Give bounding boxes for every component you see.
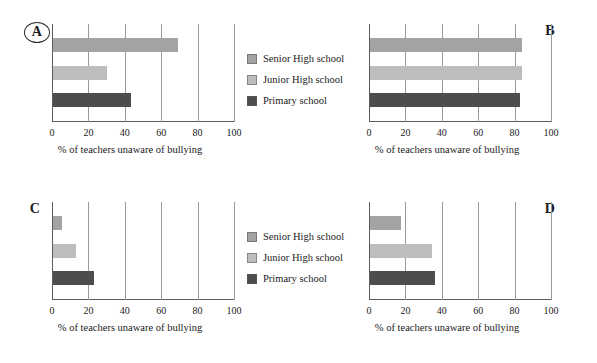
legend-label: Primary school <box>263 272 327 285</box>
legend-label: Junior High school <box>263 73 343 86</box>
gridline-100 <box>234 202 235 300</box>
bar-row <box>53 38 234 52</box>
tick-label-80: 80 <box>510 126 520 139</box>
panel-c-plot <box>52 202 234 300</box>
tick-label-40: 40 <box>437 304 447 317</box>
junior-swatch-icon <box>247 253 257 263</box>
panel-d-bars <box>370 202 551 299</box>
bar-senior <box>53 216 62 230</box>
tick-label-100: 100 <box>227 126 242 139</box>
gridline-100 <box>234 24 235 122</box>
tick-label-20: 20 <box>400 126 410 139</box>
tick-label-0: 0 <box>367 304 372 317</box>
tick-label-80: 80 <box>193 304 203 317</box>
bar-primary <box>53 271 94 285</box>
panel-d-x-axis <box>369 299 551 300</box>
legend-item-junior: Junior High school <box>247 247 357 268</box>
bar-row <box>370 38 551 52</box>
bar-junior <box>53 244 76 258</box>
panel-d: D 020406080100 % of teachers unaware of … <box>331 196 563 351</box>
tick-label-100: 100 <box>544 126 559 139</box>
bar-row <box>53 271 234 285</box>
panel-c-tick-labels: 020406080100 <box>52 304 234 318</box>
tick-label-60: 60 <box>156 126 166 139</box>
gridline-100 <box>551 24 552 122</box>
bar-primary <box>370 93 520 107</box>
bar-junior <box>53 66 107 80</box>
panel-b-tick-labels: 020406080100 <box>369 126 551 140</box>
legend-item-primary: Primary school <box>247 90 357 111</box>
legend-label: Senior High school <box>263 230 344 243</box>
legend-bottom: Senior High school Junior High school Pr… <box>247 226 357 289</box>
panel-b-x-axis <box>369 121 551 122</box>
tick-label-0: 0 <box>50 304 55 317</box>
panel-c-label: C <box>24 200 46 218</box>
bar-senior <box>370 38 522 52</box>
panel-b-bars <box>370 24 551 121</box>
legend-item-primary: Primary school <box>247 268 357 289</box>
tick-label-60: 60 <box>156 304 166 317</box>
panel-d-x-axis-title: % of teachers unaware of bullying <box>331 322 563 333</box>
panel-d-tick-labels: 020406080100 <box>369 304 551 318</box>
bar-row <box>370 271 551 285</box>
bar-junior <box>370 244 432 258</box>
panel-a: A 020406080100 % of teachers unaware of … <box>14 18 246 173</box>
tick-label-60: 60 <box>473 304 483 317</box>
bar-row <box>53 93 234 107</box>
legend-label: Senior High school <box>263 52 344 65</box>
bar-row <box>370 66 551 80</box>
legend-item-junior: Junior High school <box>247 69 357 90</box>
panel-b-x-axis-title: % of teachers unaware of bullying <box>331 144 563 155</box>
tick-label-40: 40 <box>120 304 130 317</box>
bar-row <box>370 93 551 107</box>
bar-senior <box>53 38 178 52</box>
bar-row <box>53 66 234 80</box>
panel-a-label: A <box>24 22 50 43</box>
tick-label-0: 0 <box>367 126 372 139</box>
bar-row <box>370 244 551 258</box>
panel-a-x-axis <box>52 121 234 122</box>
primary-swatch-icon <box>247 274 257 284</box>
panel-a-plot <box>52 24 234 122</box>
tick-label-100: 100 <box>227 304 242 317</box>
legend-label: Primary school <box>263 94 327 107</box>
panel-b-plot <box>369 24 551 122</box>
tick-label-80: 80 <box>510 304 520 317</box>
bullying-awareness-figure: A 020406080100 % of teachers unaware of … <box>0 0 597 363</box>
primary-swatch-icon <box>247 96 257 106</box>
tick-label-60: 60 <box>473 126 483 139</box>
bar-senior <box>370 216 401 230</box>
tick-label-80: 80 <box>193 126 203 139</box>
panel-c-bars <box>53 202 234 299</box>
panel-a-x-axis-title: % of teachers unaware of bullying <box>14 144 246 155</box>
bar-junior <box>370 66 522 80</box>
tick-label-0: 0 <box>50 126 55 139</box>
bar-row <box>370 216 551 230</box>
tick-label-20: 20 <box>83 126 93 139</box>
tick-label-20: 20 <box>400 304 410 317</box>
legend-top: Senior High school Junior High school Pr… <box>247 48 357 111</box>
panel-c-x-axis <box>52 299 234 300</box>
panel-c-x-axis-title: % of teachers unaware of bullying <box>14 322 246 333</box>
tick-label-20: 20 <box>83 304 93 317</box>
senior-swatch-icon <box>247 232 257 242</box>
bar-primary <box>53 93 131 107</box>
bar-primary <box>370 271 435 285</box>
bar-row <box>53 244 234 258</box>
bar-row <box>53 216 234 230</box>
gridline-100 <box>551 202 552 300</box>
panel-b: B 020406080100 % of teachers unaware of … <box>331 18 563 173</box>
tick-label-40: 40 <box>437 126 447 139</box>
panel-d-plot <box>369 202 551 300</box>
tick-label-100: 100 <box>544 304 559 317</box>
panel-a-bars <box>53 24 234 121</box>
panel-a-tick-labels: 020406080100 <box>52 126 234 140</box>
tick-label-40: 40 <box>120 126 130 139</box>
junior-swatch-icon <box>247 75 257 85</box>
panel-c: C 020406080100 % of teachers unaware of … <box>14 196 246 351</box>
legend-item-senior: Senior High school <box>247 48 357 69</box>
legend-label: Junior High school <box>263 251 343 264</box>
senior-swatch-icon <box>247 54 257 64</box>
legend-item-senior: Senior High school <box>247 226 357 247</box>
